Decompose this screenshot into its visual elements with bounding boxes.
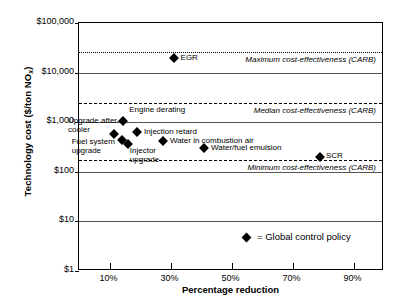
- reference-line-label-0: Maximum cost-effectiveness (CARB): [245, 55, 376, 64]
- data-point-label: EGR: [181, 54, 198, 63]
- y-axis-title: Technology cost ($/ton NOx): [22, 46, 35, 216]
- y-axis-title-subscript: x: [27, 70, 34, 74]
- y-tick-mark-10: [75, 221, 79, 222]
- x-tick-label-70: 70%: [282, 273, 300, 283]
- y-tick-mark-1: [75, 271, 79, 272]
- x-tick-mark-10: [110, 263, 111, 269]
- y-tick-label-10: $10: [59, 215, 74, 224]
- reference-line-label-2: Minimum cost-effectiveness (CARB): [248, 163, 376, 172]
- x-tick-mark-70: [293, 263, 294, 269]
- y-axis-title-suffix: ): [22, 66, 33, 69]
- y-tick-label-100000: $100,000: [36, 17, 74, 26]
- legend-diamond-icon: [242, 233, 252, 243]
- data-point-marker: [158, 136, 168, 146]
- reference-line-label-1: Median cost-effectiveness (CARB): [254, 106, 376, 115]
- x-tick-label-90: 90%: [343, 273, 361, 283]
- gridline-10000: [79, 73, 382, 74]
- legend-label: = Global control policy: [257, 231, 351, 242]
- data-point-label: Injector upgrade: [130, 147, 182, 165]
- data-point-label: Water/fuel emulsion: [211, 144, 281, 153]
- data-point-label: SCR: [326, 152, 343, 161]
- data-point-marker: [169, 53, 179, 63]
- y-tick-label-1: $1: [64, 265, 74, 274]
- data-point-label: Upgrade after-cooler: [68, 117, 120, 135]
- reference-line-1: [79, 103, 382, 104]
- data-point-label: Engine derating: [129, 106, 185, 115]
- x-axis-title: Percentage reduction: [78, 284, 383, 295]
- y-tick-label-100: $100: [54, 166, 74, 175]
- y-tick-mark-100000: [75, 23, 79, 24]
- y-tick-mark-10000: [75, 73, 79, 74]
- data-point-label: Fuel system upgrade: [72, 138, 124, 156]
- y-axis-title-prefix: Technology cost ($/ton NO: [22, 74, 33, 197]
- legend: = Global control policy: [243, 231, 351, 242]
- y-tick-label-10000: $10,000: [41, 67, 74, 76]
- x-tick-label-50: 50%: [221, 273, 239, 283]
- x-tick-mark-50: [232, 263, 233, 269]
- chart-container: Technology cost ($/ton NOx) $100,000 $10…: [0, 0, 401, 307]
- data-point-label: Injection retard: [144, 128, 197, 137]
- x-tick-mark-90: [354, 263, 355, 269]
- x-tick-label-10: 10%: [99, 273, 117, 283]
- y-tick-mark-100: [75, 172, 79, 173]
- gridline-10: [79, 221, 382, 222]
- reference-line-0: [79, 52, 382, 53]
- data-point-marker: [132, 127, 142, 137]
- x-tick-label-30: 30%: [160, 273, 178, 283]
- x-tick-mark-30: [171, 263, 172, 269]
